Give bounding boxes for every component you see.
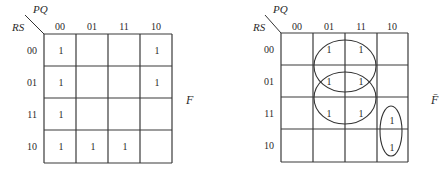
cell-value: 1 xyxy=(359,44,364,55)
cell-value: 1 xyxy=(390,115,395,126)
cell-value: 1 xyxy=(327,108,332,119)
col-header: 00 xyxy=(55,21,65,32)
col-var-label: PQ xyxy=(32,3,48,15)
row-header: 10 xyxy=(264,140,274,151)
row-header: 00 xyxy=(264,44,274,55)
col-var-label: PQ xyxy=(272,3,288,15)
row-header: 01 xyxy=(27,77,37,88)
cell-value: 1 xyxy=(155,45,160,56)
cell-value: 1 xyxy=(359,76,364,87)
col-header: 10 xyxy=(387,21,397,32)
row-header: 01 xyxy=(264,76,274,87)
cell-value: 1 xyxy=(155,77,160,88)
row-var-label: RS xyxy=(252,21,266,33)
col-header: 00 xyxy=(292,21,302,32)
row-header: 11 xyxy=(27,109,37,120)
corner-diagonal xyxy=(25,15,44,34)
cell-value: 1 xyxy=(59,45,64,56)
col-header: 11 xyxy=(119,21,129,32)
row-header: 11 xyxy=(264,108,274,119)
col-header: 01 xyxy=(324,21,334,32)
col-header: 11 xyxy=(356,21,366,32)
output-label: F xyxy=(185,93,194,107)
row-var-label: RS xyxy=(11,21,25,33)
cell-value: 1 xyxy=(59,109,64,120)
cell-value: 1 xyxy=(59,141,64,152)
cell-value: 1 xyxy=(390,142,395,153)
cell-value: 1 xyxy=(327,44,332,55)
cell-value: 1 xyxy=(91,141,96,152)
row-header: 00 xyxy=(27,45,37,56)
col-header: 10 xyxy=(151,21,161,32)
cell-value: 1 xyxy=(359,108,364,119)
cell-value: 1 xyxy=(123,141,128,152)
kmap-diagram: PQ RS 00 01 11 10 00 01 11 10 1 xyxy=(0,0,446,177)
output-label-complement: F̄ xyxy=(430,93,439,107)
corner-diagonal xyxy=(265,15,281,33)
cell-value: 1 xyxy=(327,76,332,87)
row-header: 10 xyxy=(27,141,37,152)
col-header: 01 xyxy=(87,21,97,32)
kmap-f: PQ RS 00 01 11 10 00 01 11 10 1 xyxy=(11,3,194,163)
cell-value: 1 xyxy=(59,77,64,88)
kmap-f-bar: PQ RS 00 01 11 10 00 01 11 10 xyxy=(252,3,439,162)
